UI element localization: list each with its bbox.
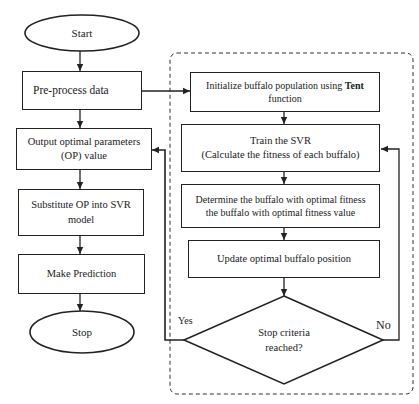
output-op-label: Output optimal parameters (OP) value <box>28 135 141 163</box>
initialize-label-bold: Tent <box>345 80 364 91</box>
yes-edge-label: Yes <box>178 315 193 326</box>
initialize-label: Initialize buffalo population using Tent… <box>206 79 364 106</box>
output-op-box: Output optimal parameters (OP) value <box>16 128 152 170</box>
determine-box: Determine the buffalo with optimal fitne… <box>181 184 380 228</box>
initialize-box: Initialize buffalo population using Tent… <box>190 72 380 112</box>
start-label: Start <box>72 27 93 39</box>
substitute-box: Substitute OP into SVR model <box>18 189 144 236</box>
predict-label: Make Prediction <box>47 267 117 281</box>
initialize-label-suffix: function <box>268 93 301 104</box>
no-edge-label: No <box>376 318 391 333</box>
stop-label: Stop <box>72 326 92 338</box>
determine-label: Determine the buffalo with optimal fitne… <box>195 193 365 220</box>
arrow-yes-to-output <box>152 150 184 340</box>
update-box: Update optimal buffalo position <box>188 240 380 278</box>
decision-label: Stop criteria reached? <box>234 326 334 355</box>
train-label: Train the SVR (Calculate the fitness of … <box>201 134 359 162</box>
stop-terminal: Stop <box>30 311 134 353</box>
initialize-label-prefix: Initialize buffalo population using <box>206 80 345 91</box>
arrow-no-to-train <box>381 149 399 340</box>
train-box: Train the SVR (Calculate the fitness of … <box>181 124 380 172</box>
preprocess-label: Pre-process data <box>33 83 109 99</box>
update-label: Update optimal buffalo position <box>217 252 351 266</box>
start-terminal: Start <box>25 15 139 51</box>
predict-box: Make Prediction <box>18 254 145 294</box>
preprocess-box: Pre-process data <box>22 71 142 110</box>
substitute-label: Substitute OP into SVR model <box>31 198 131 226</box>
